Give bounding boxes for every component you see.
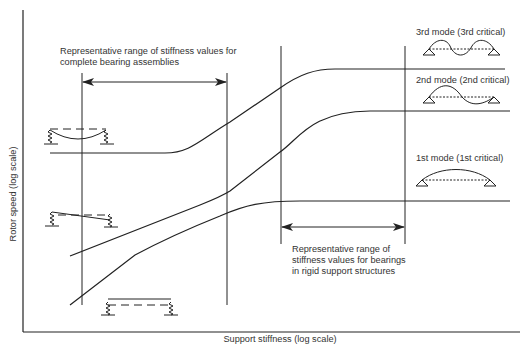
rigid-support-range-label: Representative range of stiffness values… — [292, 244, 406, 277]
mode-shape-3rd — [423, 40, 500, 55]
mode-label-3rd: 3rd mode (3rd critical) — [416, 27, 505, 38]
mode-label-1st: 1st mode (1st critical) — [416, 153, 503, 164]
mode-shape-1st — [416, 170, 496, 187]
x-axis-label: Support stiffness (log scale) — [160, 334, 400, 344]
mode-shape-2nd — [423, 86, 500, 104]
bearing-icon-bending — [44, 129, 114, 144]
bearing-assemblies-range-label: Representative range of stiffness values… — [60, 46, 237, 68]
y-axis-label: Rotor speed (log scale) — [8, 139, 18, 249]
curve-2nd-critical — [70, 111, 510, 256]
mode-label-2nd: 2nd mode (2nd critical) — [416, 75, 509, 86]
curve-1st-critical — [70, 201, 510, 305]
bearing-icon-bouncing — [101, 299, 178, 315]
critical-speed-curves — [50, 69, 510, 305]
